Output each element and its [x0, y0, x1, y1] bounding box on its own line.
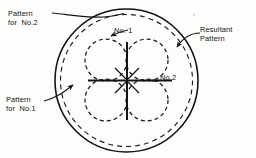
label-resultant-pattern: ResultantPattern [200, 26, 233, 43]
pattern-diagram-svg [0, 0, 256, 158]
label-no1: No. 1 [114, 27, 132, 36]
lobe-lower-left-dashed [85, 79, 127, 121]
label-resultant-pattern-line2: Pattern [200, 34, 225, 43]
lobe-upper-left-dashed [85, 39, 127, 81]
figure-canvas: Patternfor No.2 Patternfor No.1 Resultan… [0, 0, 256, 158]
lobe-lower-right-dashed [126, 79, 168, 121]
leader-pattern-no1 [44, 85, 73, 101]
label-pattern-for-no1: Patternfor No.1 [6, 96, 36, 113]
center-tick-lower-left [115, 82, 126, 93]
label-pattern-for-no2-line2: for No.2 [8, 18, 38, 27]
label-pattern-for-no2: Patternfor No.2 [8, 10, 38, 27]
leader-pattern-no2 [52, 13, 124, 17]
center-tick-upper-right [128, 68, 139, 79]
label-no2: No.2 [160, 74, 176, 83]
label-pattern-for-no1-line2: for No.1 [6, 104, 36, 113]
scan-speck [193, 14, 195, 16]
